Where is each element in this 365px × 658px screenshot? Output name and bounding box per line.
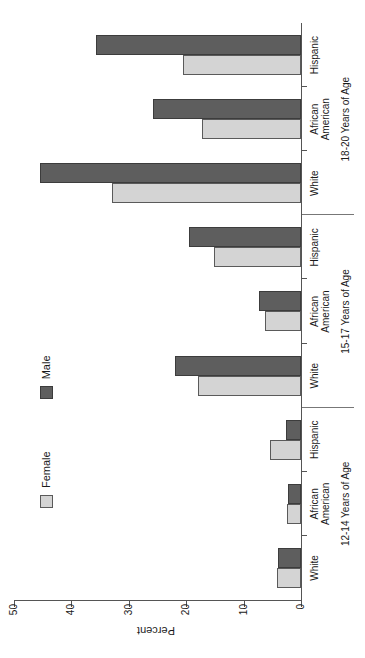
category-label-african-american-4: African American: [309, 279, 331, 343]
bar-female-12-14-Years-of-Age-White: [277, 568, 301, 588]
category-label-white-3: White: [309, 344, 320, 408]
plot-area: [14, 23, 301, 600]
bar-female-15-17-Years-of-Age-Hispanic: [214, 247, 301, 267]
rotated-figure-wrapper: Female Male Percent 01020304050 WhiteAfr…: [0, 0, 365, 658]
group-separator: [302, 214, 354, 215]
category-label-hispanic-2: Hispanic: [309, 408, 320, 472]
bar-female-15-17-Years-of-Age-White: [198, 376, 301, 396]
bar-female-18-20-Years-of-Age-White: [112, 183, 301, 203]
bar-female-12-14-Years-of-Age-Hispanic: [270, 440, 301, 460]
value-axis-title: Percent: [137, 625, 175, 637]
bar-female-12-14-Years-of-Age-African-American: [287, 504, 301, 524]
category-tick: [302, 150, 307, 151]
category-label-white-0: White: [309, 536, 320, 600]
category-tick: [302, 86, 307, 87]
category-label-african-american-7: African American: [309, 87, 331, 151]
bar-chart-figure: Female Male Percent 01020304050 WhiteAfr…: [0, 0, 365, 658]
bar-male-15-17-Years-of-Age-African-American: [259, 292, 301, 312]
category-label-african-american-1: African American: [309, 472, 331, 536]
group-label-15-17: 15-17 Years of Age: [340, 215, 351, 407]
bar-female-15-17-Years-of-Age-African-American: [265, 312, 301, 332]
category-tick: [302, 278, 307, 279]
value-axis-spine: [14, 600, 302, 601]
bar-male-12-14-Years-of-Age-African-American: [288, 484, 301, 504]
group-separator: [302, 407, 354, 408]
value-tick-label-30: 30: [124, 604, 134, 644]
group-label-12-14: 12-14 Years of Age: [340, 408, 351, 600]
category-tick: [302, 343, 307, 344]
category-label-hispanic-5: Hispanic: [309, 215, 320, 279]
bar-female-18-20-Years-of-Age-African-American: [202, 119, 301, 139]
value-tick-label-40: 40: [66, 604, 76, 644]
category-baseline: [301, 23, 302, 601]
bar-male-18-20-Years-of-Age-White: [40, 163, 301, 183]
value-tick-label-20: 20: [181, 604, 191, 644]
bar-male-18-20-Years-of-Age-Hispanic: [96, 35, 301, 55]
value-tick-label-50: 50: [9, 604, 19, 644]
bar-male-15-17-Years-of-Age-Hispanic: [189, 227, 301, 247]
category-tick: [302, 471, 307, 472]
value-tick-label-0: 0: [296, 604, 306, 644]
group-label-18-20: 18-20 Years of Age: [340, 23, 351, 215]
bar-male-12-14-Years-of-Age-Hispanic: [286, 420, 301, 440]
bar-female-18-20-Years-of-Age-Hispanic: [183, 55, 301, 75]
bar-male-18-20-Years-of-Age-African-American: [153, 99, 301, 119]
bar-male-12-14-Years-of-Age-White: [278, 548, 301, 568]
category-label-hispanic-8: Hispanic: [309, 23, 320, 87]
category-tick: [302, 535, 307, 536]
bar-male-15-17-Years-of-Age-White: [175, 356, 301, 376]
category-label-white-6: White: [309, 151, 320, 215]
value-tick-label-10: 10: [239, 604, 249, 644]
